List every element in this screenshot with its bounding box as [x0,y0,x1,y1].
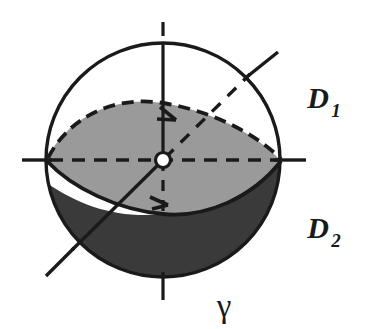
label-d2-base: D [306,211,329,244]
label-gamma: γ [216,288,232,324]
label-d2-subscript: 2 [330,230,341,251]
sphere-diagram: D 1 D 2 γ [0,0,368,329]
label-d1-subscript: 1 [331,100,341,121]
label-d1-base: D [306,81,329,114]
figure-root: D 1 D 2 γ [0,0,368,329]
center-point-circle [156,153,171,168]
